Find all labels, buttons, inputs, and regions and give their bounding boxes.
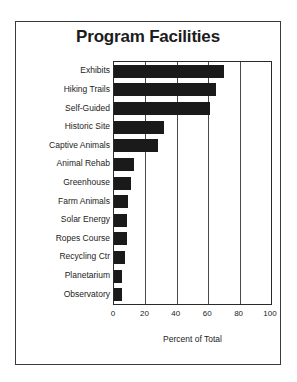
bar-row	[114, 121, 271, 134]
bar-row	[114, 158, 271, 171]
category-label: Historic Site	[20, 121, 110, 131]
category-label: Ropes Course	[20, 233, 110, 243]
bar	[114, 158, 134, 171]
bar	[114, 83, 216, 96]
x-tick-label: 20	[140, 309, 149, 318]
category-label: Observatory	[20, 289, 110, 299]
bar	[114, 195, 128, 208]
category-label: Self-Guided	[20, 103, 110, 113]
bar-series	[114, 62, 271, 304]
category-label: Recycling Ctr	[20, 251, 110, 261]
plot-area	[113, 61, 272, 305]
bar	[114, 251, 125, 264]
bar	[114, 65, 224, 78]
x-axis-title: Percent of Total	[113, 334, 272, 344]
x-tick-label: 0	[111, 309, 115, 318]
category-label: Exhibits	[20, 65, 110, 75]
category-label: Planetarium	[20, 270, 110, 280]
bar	[114, 288, 122, 301]
category-label: Solar Energy	[20, 214, 110, 224]
bar-row	[114, 65, 271, 78]
bar	[114, 139, 158, 152]
bar-row	[114, 232, 271, 245]
category-label: Animal Rehab	[20, 158, 110, 168]
bar-row	[114, 251, 271, 264]
x-tick-label: 100	[263, 309, 276, 318]
bar-row	[114, 270, 271, 283]
x-axis-tick-labels: 020406080100	[113, 309, 272, 321]
x-tick-label: 40	[171, 309, 180, 318]
bar-row	[114, 195, 271, 208]
x-tick-label: 80	[234, 309, 243, 318]
category-axis-labels: ExhibitsHiking TrailsSelf-GuidedHistoric…	[20, 61, 110, 305]
category-label: Farm Animals	[20, 196, 110, 206]
category-label: Hiking Trails	[20, 84, 110, 94]
bar-row	[114, 214, 271, 227]
chart-title: Program Facilities	[15, 27, 281, 47]
category-label: Greenhouse	[20, 177, 110, 187]
x-tick-label: 60	[203, 309, 212, 318]
bar	[114, 270, 122, 283]
bar	[114, 102, 210, 115]
bar	[114, 214, 127, 227]
bar-row	[114, 139, 271, 152]
bar	[114, 177, 131, 190]
bar-row	[114, 288, 271, 301]
chart-page: Program Facilities ExhibitsHiking Trails…	[0, 0, 297, 382]
bar	[114, 121, 164, 134]
bar-row	[114, 102, 271, 115]
category-label: Captive Animals	[20, 140, 110, 150]
bar	[114, 232, 127, 245]
bar-row	[114, 177, 271, 190]
bar-row	[114, 83, 271, 96]
